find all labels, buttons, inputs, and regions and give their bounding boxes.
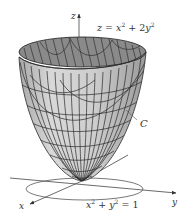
paraboloid-figure: z y x C z = x2 + 2y2 x2 + y2 = 1 — [0, 0, 189, 221]
curve-c-label: C — [140, 118, 148, 129]
unit-circle — [26, 178, 143, 200]
paraboloid-surface — [19, 37, 146, 181]
x-axis-label: x — [19, 201, 24, 211]
y-axis-label: y — [171, 197, 178, 207]
circle-equation: x2 + y2 = 1 — [86, 198, 138, 210]
x-axis — [30, 181, 82, 204]
paraboloid-diagram: z y x C z = x2 + 2y2 x2 + y2 = 1 — [0, 0, 189, 221]
y-axis — [10, 178, 176, 193]
surface-equation: z = x2 + 2y2 — [96, 21, 155, 33]
z-axis-label: z — [70, 11, 76, 21]
